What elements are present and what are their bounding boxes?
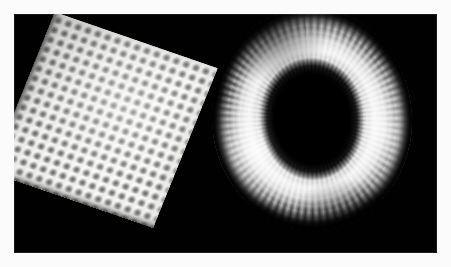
- bump-mapped-torus: [205, 14, 420, 237]
- render-canvas: [14, 14, 437, 253]
- plane-shading-layer: [14, 14, 218, 228]
- bump-mapped-plane: [14, 14, 218, 228]
- torus-vignette: [205, 14, 420, 237]
- render-figure: [0, 0, 451, 267]
